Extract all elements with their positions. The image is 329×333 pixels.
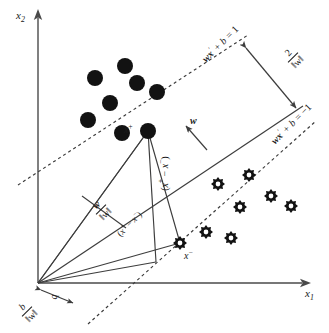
data-point-negative xyxy=(233,200,247,214)
normal-vector-label: w xyxy=(190,116,197,126)
data-point-positive xyxy=(117,58,133,74)
support-vector-positive-label: x+ xyxy=(124,124,133,135)
data-point-positive xyxy=(129,75,145,91)
data-point-negative xyxy=(211,177,225,191)
svm-margin-figure: x2 x1 wx′ + b = 1 wx′ + b = −1 2 ‖w‖ w x… xyxy=(0,0,329,333)
decision-boundary xyxy=(38,106,303,283)
axis-label-y: x2 xyxy=(16,10,25,24)
difference-vector-label: (x+ − x−) xyxy=(158,145,169,203)
axis-x xyxy=(38,279,311,287)
data-point-negative xyxy=(264,189,278,203)
data-point-negative xyxy=(173,236,187,250)
data-point-negative xyxy=(284,199,298,213)
normal-vector-arrow xyxy=(186,126,207,150)
positive-class-points xyxy=(80,58,165,141)
data-point-positive xyxy=(87,70,103,86)
data-point-positive xyxy=(140,123,156,139)
bias-label: b xyxy=(50,290,60,304)
data-point-negative xyxy=(242,168,256,182)
axis-label-x: x1 xyxy=(305,288,314,302)
data-point-positive xyxy=(149,84,165,100)
support-vector-negative-label: x− xyxy=(184,250,193,261)
data-point-positive xyxy=(80,112,96,128)
data-point-negative xyxy=(224,231,238,245)
data-point-positive xyxy=(102,95,118,111)
axis-y xyxy=(34,9,42,283)
data-point-negative xyxy=(199,225,213,239)
